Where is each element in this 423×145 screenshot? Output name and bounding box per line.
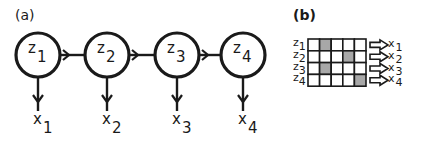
grid-cell (343, 39, 355, 51)
panel-a-label: (a) (15, 7, 35, 23)
grid-cell (320, 51, 332, 63)
grid-cell (331, 51, 343, 63)
observation-label: x4 (238, 110, 257, 137)
observation-label: x3 (172, 110, 191, 137)
grid-cell-shaded (343, 51, 355, 63)
observation-label: x2 (102, 110, 121, 137)
grid-cell (354, 63, 366, 75)
hmm-chain: z1x1z2x2z3x3z4x4 (16, 33, 265, 137)
hollow-arrow-icon (370, 75, 388, 85)
grid-cell (331, 63, 343, 75)
grid-cell (308, 39, 320, 51)
hollow-arrow-icon (370, 64, 388, 74)
grid-cell (354, 51, 366, 63)
diagram-canvas: (a) z1x1z2x2z3x3z4x4 (b) z1x1z2x2z3x3z4x… (0, 0, 423, 145)
grid-cell (308, 51, 320, 63)
hidden-state-node-3: z3 (155, 33, 199, 77)
grid-cell (343, 63, 355, 75)
hollow-arrow-icon (370, 52, 388, 62)
grid-cell (331, 74, 343, 86)
grid-cell-shaded (320, 39, 332, 51)
grid-cell (354, 39, 366, 51)
grid-cell-shaded (354, 74, 366, 86)
grid-cell-shaded (320, 63, 332, 75)
grid-cell (308, 63, 320, 75)
grid-cell (320, 74, 332, 86)
grid-cell (331, 39, 343, 51)
hidden-state-node-1: z1 (16, 33, 60, 77)
emission-grid: z1x1z2x2z3x3z4x4 (293, 36, 403, 89)
hidden-state-node-4: z4 (221, 33, 265, 77)
observation-label: x1 (33, 110, 52, 137)
grid-cell (308, 74, 320, 86)
hollow-arrow-icon (370, 40, 388, 50)
grid-cell (343, 74, 355, 86)
panel-b-label: (b) (293, 7, 316, 23)
hidden-state-node-2: z2 (85, 33, 129, 77)
